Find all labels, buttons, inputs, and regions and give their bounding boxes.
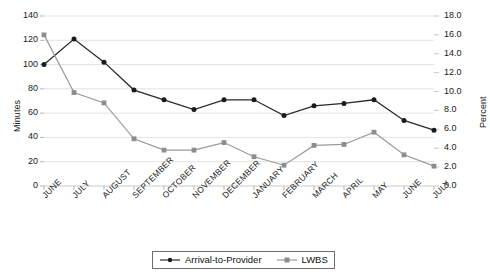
- dual-axis-line-chart: Minutes Percent 020406080100120140 0.02.…: [0, 0, 490, 277]
- data-point-marker: [132, 136, 137, 141]
- data-point-marker: [402, 152, 407, 157]
- y-axis-right-tick-label: 6.0: [444, 124, 457, 133]
- legend-marker-circle-icon: [159, 255, 181, 265]
- y-axis-right-tick-label: 18.0: [444, 11, 462, 20]
- data-point-marker: [102, 100, 107, 105]
- y-axis-right-tick-label: 10.0: [444, 87, 462, 96]
- data-point-marker: [72, 37, 77, 42]
- y-axis-right-tick-label: 16.0: [444, 30, 462, 39]
- y-axis-right-tick-label: 4.0: [444, 143, 457, 152]
- chart-legend: Arrival-to-Provider LWBS: [152, 251, 335, 269]
- y-axis-left-tick-label: 120: [10, 35, 38, 44]
- series-layer: [42, 32, 437, 168]
- legend-label-arrival-to-provider: Arrival-to-Provider: [185, 254, 262, 265]
- data-point-marker: [72, 90, 77, 95]
- series-line: [44, 39, 434, 130]
- y-axis-right-tick-label: 2.0: [444, 162, 457, 171]
- plot-area: [0, 0, 490, 277]
- y-axis-right-tick-label: 12.0: [444, 68, 462, 77]
- data-point-marker: [432, 164, 437, 169]
- y-axis-right-tick-label: 8.0: [444, 105, 457, 114]
- data-point-marker: [342, 101, 347, 106]
- legend-label-lwbs: LWBS: [302, 254, 328, 265]
- legend-item-arrival-to-provider[interactable]: Arrival-to-Provider: [159, 254, 262, 265]
- y-axis-left-tick-label: 20: [10, 157, 38, 166]
- y-axis-right-tick-label: 14.0: [444, 49, 462, 58]
- y-axis-left-tick-label: 140: [10, 11, 38, 20]
- legend-item-lwbs[interactable]: LWBS: [276, 254, 328, 265]
- data-point-marker: [432, 128, 437, 133]
- y-axis-right-title: Percent: [478, 96, 488, 128]
- data-point-marker: [42, 62, 47, 67]
- data-point-marker: [312, 103, 317, 108]
- data-point-marker: [102, 60, 107, 65]
- data-point-marker: [162, 148, 167, 153]
- data-point-marker: [312, 143, 317, 148]
- y-axis-left-tick-label: 0: [10, 181, 38, 190]
- data-point-marker: [342, 142, 347, 147]
- data-point-marker: [222, 97, 227, 102]
- data-point-marker: [192, 148, 197, 153]
- data-point-marker: [222, 140, 227, 145]
- data-point-marker: [372, 97, 377, 102]
- data-point-marker: [252, 97, 257, 102]
- y-axis-left-tick-label: 40: [10, 132, 38, 141]
- data-point-marker: [192, 107, 197, 112]
- legend-marker-square-icon: [276, 255, 298, 265]
- data-point-marker: [372, 130, 377, 135]
- y-axis-left-tick-label: 60: [10, 108, 38, 117]
- data-point-marker: [162, 97, 167, 102]
- data-point-marker: [282, 113, 287, 118]
- data-point-marker: [402, 118, 407, 123]
- data-point-marker: [132, 88, 137, 93]
- data-point-marker: [42, 32, 47, 37]
- y-axis-left-tick-label: 100: [10, 60, 38, 69]
- y-axis-left-tick-label: 80: [10, 84, 38, 93]
